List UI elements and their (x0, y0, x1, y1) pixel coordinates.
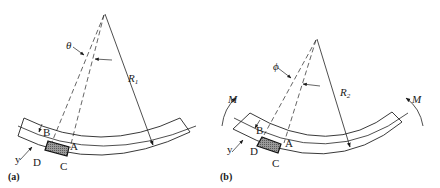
curved-beam-diagram: θ R1 B A D C y (a) ϕ R2 (0, 0, 440, 188)
offset-label-y: y (15, 153, 21, 165)
angle-arrow-right (95, 59, 112, 60)
panel-tag-a: (a) (8, 171, 20, 183)
beam-top-edge (250, 112, 392, 136)
panel-tag-b: (b) (220, 171, 232, 183)
offset-arrow-y (20, 147, 32, 160)
radius-label: R1 (127, 72, 138, 86)
moment-label-right: M (411, 93, 422, 105)
point-label-a: A (285, 137, 293, 149)
offset-arrow-y (232, 140, 243, 152)
angle-label-phi: ϕ (273, 60, 279, 72)
point-label-d: D (250, 145, 258, 157)
beam-right-end (180, 118, 190, 132)
beam-left-end (233, 113, 250, 129)
moment-label-left: M (227, 93, 238, 105)
angle-arrow-left (73, 47, 84, 55)
dashed-radial-line-left (52, 15, 104, 142)
point-label-c: C (60, 160, 67, 172)
beam-left-end (18, 118, 24, 136)
panel-a: θ R1 B A D C y (a) (8, 14, 196, 183)
point-label-b: B (256, 124, 263, 136)
panel-b: ϕ R2 B A D C y M M (b) (220, 39, 423, 183)
dashed-radial-line-right (70, 15, 104, 148)
shaded-element (257, 137, 281, 153)
radius-label: R2 (339, 86, 351, 100)
angle-label-theta: θ (66, 39, 72, 51)
shaded-element (45, 141, 69, 156)
point-label-d: D (33, 156, 41, 168)
angle-arrow-right (303, 84, 320, 86)
point-label-a: A (70, 140, 78, 152)
point-label-c: C (272, 157, 279, 169)
dashed-radial-line-left (264, 40, 316, 135)
dashed-radial-line-right (284, 40, 316, 143)
angle-arrow-left (278, 68, 291, 78)
offset-label-y: y (227, 143, 233, 155)
point-label-b: B (43, 126, 50, 138)
